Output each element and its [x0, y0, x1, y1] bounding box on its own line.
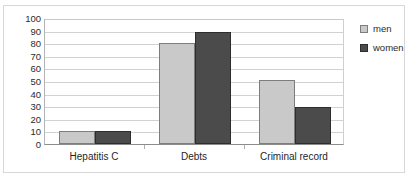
bar-men-0: [59, 131, 95, 144]
y-axis-tick-label: 10: [5, 127, 41, 137]
bar-chart: 1009080706050403020100 men women Hepatit…: [0, 0, 412, 184]
y-axis-tick-label: 30: [5, 102, 41, 112]
x-axis-tick-mark: [244, 145, 245, 149]
y-axis-tick-label: 40: [5, 90, 41, 100]
y-axis-tick-label: 80: [5, 39, 41, 49]
bar-women-1: [195, 32, 231, 144]
y-axis-tick-label: 90: [5, 27, 41, 37]
y-axis-tick-label: 60: [5, 64, 41, 74]
plot-area: [44, 19, 344, 145]
legend-item-women: women: [360, 43, 412, 53]
legend-swatch-men-icon: [360, 25, 368, 33]
y-axis-tick-label: 100: [5, 14, 41, 24]
legend-label-women: women: [373, 43, 404, 53]
bar-women-2: [295, 107, 331, 144]
y-axis-labels: 1009080706050403020100: [4, 19, 41, 145]
y-axis-tick-label: 20: [5, 115, 41, 125]
x-axis-label-2: Criminal record: [244, 151, 344, 163]
chart-frame: 1009080706050403020100 men women Hepatit…: [3, 5, 405, 173]
y-axis-tick-label: 70: [5, 52, 41, 62]
gridline: [45, 32, 343, 33]
bar-men-2: [259, 80, 295, 144]
y-axis-tick-label: 0: [5, 140, 41, 150]
gridline: [45, 19, 343, 20]
bar-women-0: [95, 131, 131, 144]
legend-item-men: men: [360, 24, 412, 34]
chart-legend: men women: [360, 24, 412, 62]
x-axis-label-0: Hepatitis C: [44, 151, 144, 163]
legend-swatch-women-icon: [360, 44, 368, 52]
y-axis-tick-label: 50: [5, 77, 41, 87]
x-axis-tick-mark: [144, 145, 145, 149]
bar-men-1: [159, 43, 195, 144]
x-axis-label-1: Debts: [144, 151, 244, 163]
legend-label-men: men: [373, 24, 391, 34]
